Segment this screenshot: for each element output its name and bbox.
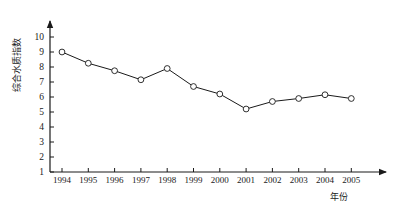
data-point-marker <box>191 84 197 90</box>
data-point-marker <box>348 96 354 102</box>
data-point-marker <box>138 77 144 83</box>
data-point-marker <box>59 49 65 55</box>
data-point-marker <box>322 92 328 98</box>
data-point-marker <box>112 68 118 74</box>
data-point-marker <box>243 106 249 112</box>
data-point-marker <box>164 66 170 72</box>
data-line-series <box>62 52 351 109</box>
chart-tick-marks <box>50 37 351 172</box>
chart-container: 综合水质指数 年份 12345678910 199419951996199719… <box>0 0 397 211</box>
chart-axes <box>47 20 387 175</box>
chart-plot-area <box>0 0 397 211</box>
data-point-marker <box>85 60 91 66</box>
data-point-marker <box>270 99 276 105</box>
data-point-marker <box>296 96 302 102</box>
data-point-markers <box>59 49 354 112</box>
data-point-marker <box>217 91 223 97</box>
